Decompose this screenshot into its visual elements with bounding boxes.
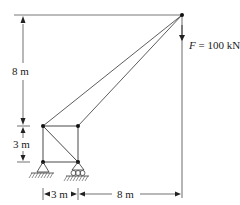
pin-support: [29, 162, 54, 178]
node-top-left: [41, 124, 45, 128]
load-label: F = 100 kN: [188, 39, 240, 51]
dim-label-horizontal-right: 8 m: [117, 188, 134, 200]
dim-arrow-down-3m: [21, 155, 26, 161]
load-equals: =: [196, 39, 208, 51]
dim-arrow-up-8m: [21, 16, 26, 23]
dim-label-vertical-upper: 8 m: [12, 65, 29, 77]
dim-arrow-right-8m: [175, 192, 181, 197]
dim-arrow-up-3m: [21, 127, 26, 133]
diagram-svg: 8 m 3 m 3 m 8 m F = 100 kN: [0, 0, 240, 205]
node-top-right: [76, 124, 80, 128]
load-value: 100 kN: [207, 39, 240, 51]
roller-support: [64, 162, 89, 181]
dim-arrow-left-3m: [44, 192, 50, 197]
truss-diagram: 8 m 3 m 3 m 8 m F = 100 kN: [0, 0, 240, 205]
dim-arrow-right-3m: [71, 192, 77, 197]
member-diagonal: [43, 126, 78, 162]
dim-arrow-left-8m: [79, 192, 85, 197]
dim-label-horizontal-left: 3 m: [51, 188, 68, 200]
cable-right: [78, 15, 182, 126]
node-apex: [180, 13, 184, 17]
cable-left: [43, 15, 182, 126]
dim-arrow-down-8m: [21, 118, 26, 125]
dim-label-vertical-lower: 3 m: [13, 138, 30, 150]
